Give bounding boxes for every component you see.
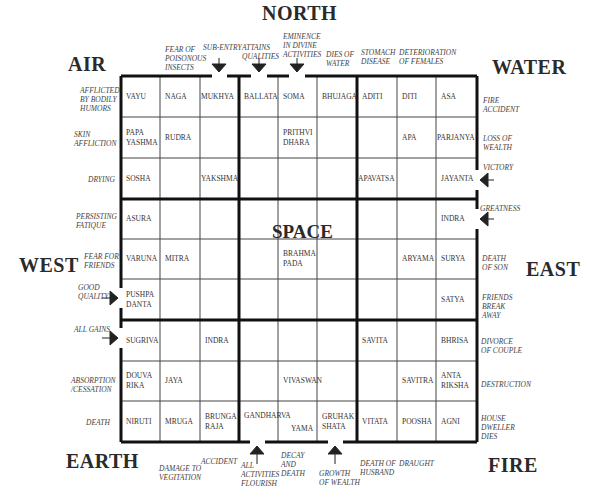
deity-name: BHRISA [441,336,469,346]
grid-cell: SURYA [441,239,465,279]
grid-cell: PUSHPADANTA [126,279,154,320]
grid-cell: MRUGA [165,401,193,442]
grid-cell: BALLATA [244,76,278,117]
deity-name: INDRA [441,214,465,224]
deity-name-line2: DHARA [283,138,313,148]
grid-cell: INDRA [205,320,229,361]
deity-name-line2: DANTA [126,300,154,310]
left-note: ALL GAINS [74,325,110,334]
deity-name: JAYANTA [441,174,473,184]
grid-cell: DITI [402,76,417,117]
deity-name: SATYA [441,295,464,305]
grid-cell: YAKSHMA [201,158,238,199]
deity-name: ADITI [362,92,382,102]
deity-name-line2: SHATA [322,422,354,432]
arrow-left-icon [480,173,494,187]
top-note: STOMACHDISEASE [361,48,395,66]
grid-cell: SOSHA [126,158,151,199]
deity-name: VIVASWAN [283,376,322,386]
deity-name: SAVITRA [402,376,434,386]
bottom-note: DRAUGHT [399,459,434,468]
deity-name-line2: YASHMA [126,138,158,148]
deity-name: PAPA [126,128,158,138]
grid-cell: SAVITRA [402,361,434,401]
grid-cell: SUGRIVA [126,320,158,361]
grid-cell: ASA [441,76,456,117]
water-label: WATER [492,56,566,79]
grid-cell: AGNI [441,401,460,442]
left-note: SKINAFFLICTION [74,130,117,148]
arrow-left-icon [480,212,494,226]
deity-name: SOMA [283,92,305,102]
left-note: DEATH [86,418,110,427]
grid-cell: VARUNA [126,239,157,279]
deity-name: SAVITA [362,336,388,346]
arrow-up-icon [328,446,342,464]
grid-cell: JAYA [165,361,183,401]
grid-cell: BRUNGARAJA [205,401,237,442]
grid-cell: DOUVARIKA [126,361,152,401]
top-note: DIES OFWATER [326,50,354,68]
deity-name: PUSHPA [126,290,154,300]
left-note: PERSISTINGFATIQUE [76,212,117,230]
grid-cell: VAYU [126,76,146,117]
right-note: FRIENDSBREAKAWAY [482,293,512,320]
deity-name: SUGRIVA [126,336,158,346]
bottom-note: DECAYANDDEATH [281,451,305,478]
deity-name: BHUJAGA [322,92,357,102]
grid-cell: BHUJAGA [322,76,357,117]
deity-name: ANTA [441,371,469,381]
deity-name: MITRA [165,254,189,264]
bottom-note: DEATH OFHUSBAND [360,459,396,477]
deity-name: APA [402,133,416,143]
top-note: FEAR OFPOISONOUSINSECTS [165,45,206,72]
deity-name: INDRA [205,336,229,346]
deity-name: GANDHARVA [244,411,291,421]
grid-cell: INDRA [441,199,465,239]
grid-cell: MITRA [165,239,189,279]
right-note: LOSS OFWEALTH [483,134,512,152]
deity-name: ASURA [126,214,151,224]
deity-name: JAYA [165,376,183,386]
right-note: VICTORY [483,163,513,172]
arrow-down-icon [212,58,226,72]
left-note: GOODQUALITY [78,283,108,301]
top-note: DETERIORATIONOF FEMALES [399,48,456,66]
bottom-note: ACCIDENT [201,457,237,466]
right-note: GREATNESS [480,204,520,213]
air-label: AIR [68,53,106,76]
grid-cell: ANTARIKSHA [441,361,469,401]
deity-name: MRUGA [165,417,193,427]
grid-cell: APA [402,117,416,158]
right-note: DEATHOF SON [482,254,508,272]
left-note: DRYING [88,175,115,184]
deity-name-line2: PADA [283,259,316,269]
deity-name: PARJANYA [437,133,475,143]
left-note: ABSORPTION/CESSATION [71,376,116,394]
grid-cell: ASURA [126,199,151,239]
top-note: SUB-ENTRY [203,43,242,52]
deity-name-line2: RIKA [126,381,152,391]
deity-name: SURYA [441,254,465,264]
grid-cell: SAVITA [362,320,388,361]
top-note: ATTAINSQUALITIES [242,43,279,61]
grid-cell: PARJANYA [437,117,475,158]
deity-name: YAKSHMA [201,174,238,184]
left-note: AFFLICTEDBY BODILYHUMORS [80,86,120,113]
west-label: WEST [19,254,79,277]
deity-name: VAYU [126,92,146,102]
deity-name: BRUNGA [205,412,237,422]
deity-name: VITATA [362,417,388,427]
deity-name: NIRUTI [126,417,151,427]
deity-name: GRUHAK [322,412,354,422]
grid-cell: SOMA [283,76,305,117]
deity-name: MUKHYA [201,92,234,102]
deity-name: BRAHMA [283,249,316,259]
grid-cell: ADITI [362,76,382,117]
right-note: DIVORCEOF COUPLE [481,337,522,355]
grid-cell: ARYAMA [402,239,434,279]
deity-name: BALLATA [244,92,278,102]
grid-cell: NAGA [165,76,187,117]
left-note: FEAR FORFRIENDS [84,252,119,270]
deity-name: ARYAMA [402,254,434,264]
